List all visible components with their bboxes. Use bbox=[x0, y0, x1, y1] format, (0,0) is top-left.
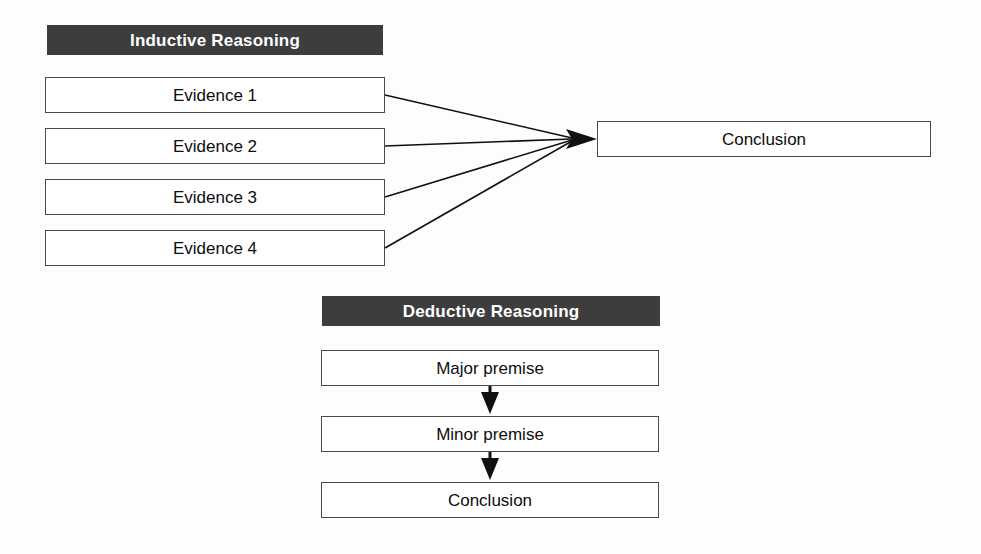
evidence-box-2: Evidence 2 bbox=[45, 128, 385, 164]
evidence-box-4: Evidence 4 bbox=[45, 230, 385, 266]
arrowhead-to-inductive-conclusion bbox=[566, 129, 597, 149]
connector-evidence-3-to-conclusion bbox=[385, 140, 572, 197]
deductive-conclusion-box: Conclusion bbox=[321, 482, 659, 518]
evidence-box-3: Evidence 3 bbox=[45, 179, 385, 215]
inductive-conclusion-box: Conclusion bbox=[597, 121, 931, 157]
arrowhead-major-to-minor bbox=[481, 392, 499, 414]
minor-premise-box: Minor premise bbox=[321, 416, 659, 452]
major-premise-box: Major premise bbox=[321, 350, 659, 386]
evidence-box-1: Evidence 1 bbox=[45, 77, 385, 113]
connector-evidence-2-to-conclusion bbox=[385, 139, 572, 146]
deductive-reasoning-header: Deductive Reasoning bbox=[322, 296, 660, 326]
connector-evidence-4-to-conclusion bbox=[385, 141, 572, 248]
connector-evidence-1-to-conclusion bbox=[385, 95, 572, 138]
inductive-reasoning-header: Inductive Reasoning bbox=[47, 25, 383, 55]
arrowhead-minor-to-conclusion bbox=[481, 458, 499, 480]
reasoning-diagram: Inductive Reasoning Evidence 1 Evidence … bbox=[0, 0, 981, 554]
